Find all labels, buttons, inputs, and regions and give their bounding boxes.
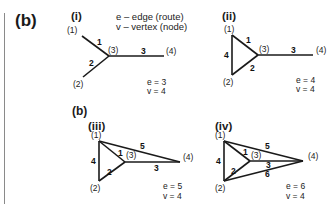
edge-label-4: 4: [216, 157, 221, 166]
node-2: (2): [223, 78, 233, 87]
edge-label-1: 1: [97, 38, 102, 47]
edge-label-2: 2: [231, 167, 236, 176]
edge-label-5: 5: [140, 142, 145, 151]
node-1: (1): [91, 131, 101, 140]
node-4: (4): [183, 153, 193, 162]
edge-1: [82, 36, 109, 56]
vertex-count: v = 4: [296, 85, 315, 94]
edge-label-2: 2: [250, 64, 255, 73]
edge-label-4: 4: [91, 157, 96, 166]
panel-label: (ii): [222, 11, 236, 23]
panel-label: (i): [71, 11, 82, 23]
node-1: (1): [67, 26, 77, 35]
node-2: (2): [73, 80, 83, 89]
edge-label-2: 2: [89, 59, 94, 68]
node-1: (1): [215, 131, 225, 140]
edge-1: [232, 35, 258, 55]
node-4: (4): [308, 152, 318, 161]
edge-label-1: 1: [243, 148, 248, 157]
node-3: (3): [108, 46, 118, 55]
vertex-count: v = 4: [147, 87, 166, 96]
node-1: (1): [224, 25, 234, 34]
vertex-count: v = 4: [286, 192, 305, 201]
sub-figure-label: (b): [72, 105, 87, 117]
node-3: (3): [259, 45, 269, 54]
edge-label-3: 3: [141, 47, 146, 56]
vertex-count: v = 4: [163, 192, 182, 201]
node-2: (2): [215, 184, 225, 193]
edge-label-1: 1: [118, 149, 123, 158]
panel-i-edges: [82, 36, 164, 77]
edge-label-3: 3: [291, 46, 296, 55]
node-2: (2): [90, 184, 100, 193]
edge-count: e = 6: [286, 182, 305, 191]
node-3: (3): [126, 151, 136, 160]
edge-label-4: 4: [224, 51, 229, 60]
panel-ii-edges: [232, 35, 313, 75]
edge-label-1: 1: [246, 36, 251, 45]
edge-2: [99, 162, 125, 181]
edge-count: e = 5: [163, 182, 182, 191]
edge-label-3: 3: [154, 164, 159, 173]
edge-label-6: 6: [265, 170, 270, 179]
node-4: (4): [166, 47, 176, 56]
edge-label-2: 2: [107, 168, 112, 177]
node-3: (3): [251, 151, 261, 160]
node-4: (4): [316, 46, 326, 55]
edge-2: [83, 56, 109, 77]
legend-vertex: v – vertex (node): [116, 22, 187, 32]
edge-label-5: 5: [265, 142, 270, 151]
